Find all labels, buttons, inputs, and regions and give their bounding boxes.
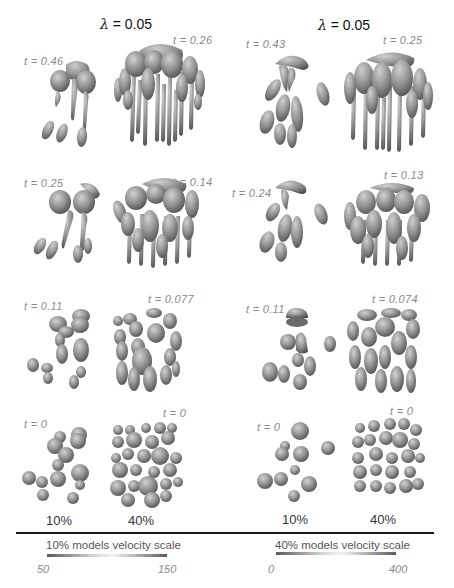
time-label: t = 0.25 bbox=[383, 34, 422, 46]
velocity-scale-title-10pct: 10% models velocity scale bbox=[46, 539, 181, 551]
particle-cluster-40pct-t014 bbox=[110, 176, 210, 266]
particle-cluster-10pct-t011-right bbox=[258, 308, 338, 398]
lambda-symbol: λ bbox=[318, 17, 327, 33]
velocity-colorbar-10pct bbox=[47, 554, 167, 557]
particle-cluster-40pct-t0074 bbox=[343, 305, 433, 405]
particle-cluster-10pct-t046 bbox=[36, 55, 116, 150]
particle-cluster-10pct-t011 bbox=[24, 308, 104, 398]
scale-max-tick: 400 bbox=[389, 563, 407, 575]
column-header-right: λ = 0.05 bbox=[318, 17, 370, 33]
column-header-left: λ = 0.05 bbox=[100, 16, 152, 32]
particle-cluster-40pct-t013 bbox=[340, 180, 440, 266]
scale-min-tick: 50 bbox=[37, 563, 49, 575]
time-label: t = 0.074 bbox=[372, 293, 418, 305]
divider-rule bbox=[16, 532, 434, 534]
particle-cluster-40pct-t0-right bbox=[348, 416, 428, 502]
particle-cluster-40pct-t025 bbox=[338, 48, 438, 153]
time-label: t = 0 bbox=[163, 407, 186, 419]
particle-cluster-10pct-t043 bbox=[255, 48, 335, 153]
velocity-colorbar-40pct bbox=[276, 552, 396, 555]
particle-cluster-40pct-t026 bbox=[110, 40, 210, 150]
scale-min-tick: 0 bbox=[268, 563, 274, 575]
time-label: t = 0.077 bbox=[148, 293, 194, 305]
particle-cluster-40pct-t0077 bbox=[108, 305, 188, 405]
lambda-symbol: λ bbox=[100, 16, 109, 32]
particle-cluster-10pct-t0-right bbox=[255, 422, 335, 507]
concentration-label: 40% bbox=[128, 513, 154, 528]
velocity-scale-title-40pct: 40% models velocity scale bbox=[275, 539, 410, 551]
lambda-value: = 0.05 bbox=[113, 16, 152, 32]
particle-cluster-10pct-t024 bbox=[255, 176, 335, 266]
particle-cluster-10pct-t0-left bbox=[20, 425, 95, 505]
particle-cluster-10pct-t025 bbox=[32, 178, 112, 263]
lambda-value: = 0.05 bbox=[331, 17, 370, 33]
scale-max-tick: 150 bbox=[158, 563, 176, 575]
particle-cluster-40pct-t0-left bbox=[108, 422, 186, 508]
concentration-label: 10% bbox=[282, 512, 308, 527]
concentration-label: 10% bbox=[46, 513, 72, 528]
concentration-label: 40% bbox=[370, 512, 396, 527]
